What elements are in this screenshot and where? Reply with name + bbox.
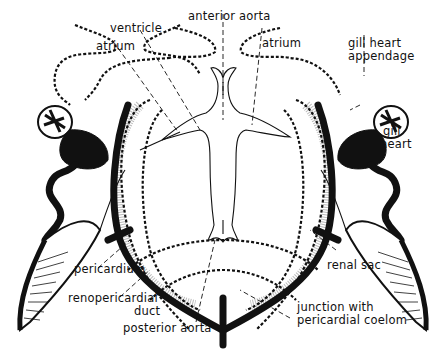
right-gill-heart xyxy=(338,130,386,169)
left-gill-heart xyxy=(60,130,108,169)
label-ventricle: ventricle xyxy=(110,22,162,34)
label-gill-heart-appendage-line2: appendage xyxy=(348,50,415,62)
label-junction-line2: pericardial coelom xyxy=(297,314,407,326)
label-renal-sac: renal sac xyxy=(327,259,381,271)
right-renal-stipple xyxy=(251,105,329,305)
label-atrium-left: atrium xyxy=(96,40,135,52)
label-gill-heart-appendage-line1: gill heart xyxy=(348,37,401,49)
right-pericardium-inner xyxy=(246,110,303,310)
left-top-vessel xyxy=(85,58,170,100)
label-pericardium: pericardium xyxy=(74,263,145,275)
label-gill-heart-line2: heart xyxy=(380,138,412,150)
label-posterior-aorta: posterior aorta xyxy=(123,322,212,334)
label-atrium-right: atrium xyxy=(262,37,301,49)
left-aorta-loop xyxy=(55,25,116,105)
label-renopericardial-line1: renopericardial xyxy=(68,292,158,304)
label-junction-line1: junction with xyxy=(297,301,374,313)
label-anterior-aorta: anterior aorta xyxy=(188,10,270,22)
label-renopericardial-line2: duct xyxy=(134,305,160,317)
right-branchial-vessel xyxy=(224,105,332,330)
label-gill-heart-line1: gill xyxy=(383,125,401,137)
center-top-left-vessel xyxy=(170,28,215,58)
left-pericardium-inner xyxy=(143,110,200,310)
ventricle-outline xyxy=(162,68,290,242)
